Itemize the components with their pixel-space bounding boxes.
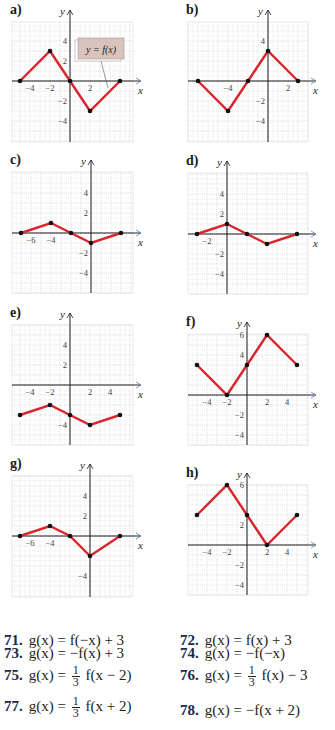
vertex-point xyxy=(88,554,93,559)
exercise-equation-lhs: g(x) = xyxy=(205,667,246,683)
denominator: 3 xyxy=(248,677,256,688)
vertex-point xyxy=(245,513,250,518)
y-axis-label: y xyxy=(80,155,86,167)
x-axis-label: x xyxy=(137,236,143,248)
x-tick-label: 4 xyxy=(285,397,290,407)
exercise-equation: g(x) = −f(x + 2) xyxy=(205,702,300,718)
x-tick-label: −4 xyxy=(45,538,55,548)
vertex-point xyxy=(88,109,93,114)
exercise-74: 74.g(x) = −f(−x) xyxy=(180,645,285,662)
x-tick-label: −2 xyxy=(222,547,231,557)
x-tick-label: 2 xyxy=(286,83,290,93)
x-tick-label: 2 xyxy=(88,387,92,397)
y-tick-label: −4 xyxy=(235,580,245,590)
y-axis-label: y xyxy=(79,459,85,471)
x-tick-label: −2 xyxy=(222,397,231,407)
vertex-point xyxy=(48,403,53,408)
vertex-point xyxy=(225,483,230,488)
vertex-point xyxy=(265,242,270,247)
exercise-equation-lhs: g(x) = xyxy=(29,667,70,683)
y-tick-label: −2 xyxy=(235,410,244,420)
y-tick-label: −4 xyxy=(235,430,245,440)
y-tick-label: −2 xyxy=(215,249,224,259)
panel-label: a) xyxy=(10,2,22,18)
x-tick-label: −2 xyxy=(45,387,54,397)
exercise-equation: g(x) = −f(−x) xyxy=(205,645,285,661)
x-tick-label: 2 xyxy=(265,547,269,557)
vertex-point xyxy=(89,241,94,246)
y-tick-label: −4 xyxy=(79,268,89,278)
vertex-point xyxy=(266,49,271,54)
x-axis-label: x xyxy=(137,388,143,400)
vertex-point xyxy=(246,79,251,84)
vertex-point xyxy=(48,49,53,54)
exercise-equation-rhs: f(x − 2) xyxy=(82,667,132,683)
panel-label: d) xyxy=(186,153,199,169)
vertex-point xyxy=(225,222,230,227)
graphs-canvas: xya)−4−2242−2−4y = f(x)xyb)−424−2−4xyc)−… xyxy=(0,0,335,640)
y-tick-label: −4 xyxy=(78,571,88,581)
vertex-point xyxy=(68,413,73,418)
panel-label: h) xyxy=(186,465,199,481)
y-axis-label: y xyxy=(236,317,242,329)
x-tick-label: −4 xyxy=(202,547,212,557)
fraction: 13 xyxy=(248,665,256,688)
vertex-point xyxy=(265,333,270,338)
y-tick-label: 2 xyxy=(83,511,87,521)
y-tick-label: 2 xyxy=(63,56,67,66)
graph-panel-h: xyh)−4−22462−2−4 xyxy=(186,465,318,595)
y-tick-label: −4 xyxy=(256,116,266,126)
x-axis-label: x xyxy=(312,84,318,96)
y-axis-label: y xyxy=(257,5,263,17)
graph-panel-f: xyf)−4−22464−2−4 xyxy=(186,314,318,445)
vertex-point xyxy=(68,534,73,539)
x-axis-label: x xyxy=(312,237,318,249)
vertex-point xyxy=(245,232,250,237)
vertex-point xyxy=(245,363,250,368)
y-tick-label: −2 xyxy=(58,96,67,106)
y-tick-label: −4 xyxy=(215,269,225,279)
vertex-point xyxy=(265,543,270,548)
y-tick-label: 2 xyxy=(220,209,224,219)
vertex-point xyxy=(18,79,23,84)
exercise-77: 77.g(x) = 13 f(x + 2) xyxy=(4,696,131,719)
y-tick-label: 2 xyxy=(84,208,88,218)
graph-panel-e: xye)−4−22442−4 xyxy=(10,305,143,445)
exercise-number: 76. xyxy=(180,667,199,683)
x-tick-label: 2 xyxy=(265,397,269,407)
fraction: 13 xyxy=(72,696,80,719)
x-tick-label: −6 xyxy=(26,235,35,245)
vertex-point xyxy=(18,413,23,418)
exercise-equation-lhs: g(x) = xyxy=(29,698,70,714)
graph-panel-a: xya)−4−2242−2−4y = f(x) xyxy=(10,2,143,142)
graph-panel-d: xyd)−242−2−4 xyxy=(186,153,318,294)
y-axis-label: y xyxy=(216,156,222,168)
fraction: 13 xyxy=(72,665,80,688)
vertex-point xyxy=(225,393,230,398)
vertex-point xyxy=(295,363,300,368)
exercise-78: 78.g(x) = −f(x + 2) xyxy=(180,702,300,719)
vertex-point xyxy=(118,534,123,539)
graph-panel-b: xyb)−424−2−4 xyxy=(186,2,318,142)
vertex-point xyxy=(119,231,124,236)
grid xyxy=(188,334,308,445)
y-tick-label: 4 xyxy=(83,491,88,501)
exercise-equation-rhs: f(x + 2) xyxy=(82,698,132,714)
exercise-number: 74. xyxy=(180,645,199,661)
x-tick-label: −4 xyxy=(46,235,56,245)
panel-label: g) xyxy=(10,456,22,472)
x-tick-label: 4 xyxy=(108,387,113,397)
graph-panel-c: xyc)−6−442−2−4 xyxy=(10,152,143,293)
y-tick-label: −2 xyxy=(79,248,88,258)
x-tick-label: 2 xyxy=(88,83,92,93)
exercise-73: 73.g(x) = −f(x) + 3 xyxy=(4,645,124,662)
panel-label: b) xyxy=(186,2,199,18)
x-tick-label: 4 xyxy=(285,547,290,557)
x-axis-label: x xyxy=(312,398,318,410)
denominator: 3 xyxy=(72,677,80,688)
x-tick-label: −4 xyxy=(202,397,212,407)
exercise-equation-rhs: f(x) − 3 xyxy=(258,667,308,683)
vertex-point xyxy=(118,79,123,84)
vertex-point xyxy=(48,524,53,529)
vertex-point xyxy=(68,79,73,84)
